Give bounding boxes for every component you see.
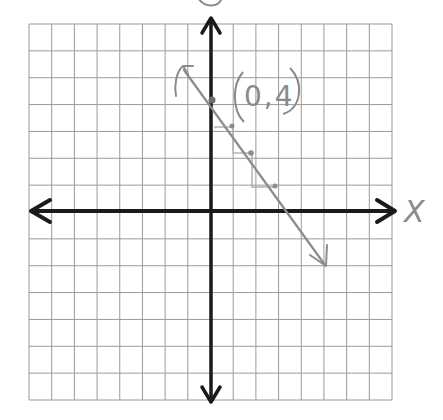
point-annotation: 0,4	[235, 68, 299, 122]
point-3-1	[273, 184, 278, 189]
point-1-3	[230, 124, 235, 129]
point-2-2	[248, 150, 254, 156]
axes	[31, 18, 395, 402]
point-0-4	[209, 97, 216, 104]
y-axis-label-glyph	[198, 0, 222, 6]
slope-step-1	[214, 127, 252, 153]
x-axis-label: X	[402, 194, 426, 229]
coordinate-plane: X 0,4	[0, 0, 443, 420]
point-label: 0,4	[244, 80, 295, 113]
paren-left	[235, 72, 244, 122]
